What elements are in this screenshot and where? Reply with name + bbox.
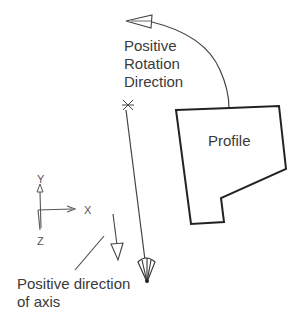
- rotation-label-line3: Direction: [124, 73, 183, 91]
- axis-direction-label-line2: of axis: [17, 293, 60, 311]
- axis-direction-label-line1: Positive direction: [17, 275, 130, 293]
- z-axis-line: [38, 210, 40, 230]
- triad-z-label: Z: [37, 235, 44, 247]
- diagram-canvas: Positive Rotation Direction Profile Posi…: [0, 0, 303, 326]
- rotation-label-line1: Positive: [124, 37, 177, 55]
- leader-line: [75, 236, 104, 270]
- triad-y-label: Y: [37, 173, 44, 185]
- triad-x-label: X: [84, 204, 91, 216]
- axis-cross-marker-icon: [122, 100, 134, 110]
- rotation-axis-line: [126, 110, 146, 268]
- profile-label: Profile: [208, 132, 251, 150]
- axis-cone-arrow-icon: [138, 258, 155, 283]
- profile-shape: [176, 106, 286, 224]
- x-axis-line: [38, 209, 72, 210]
- y-arrowhead-icon: [37, 184, 43, 192]
- rotation-arrowhead-icon: [126, 15, 152, 28]
- direction-arrow-shaft: [113, 214, 117, 245]
- direction-arrowhead-icon: [111, 243, 123, 260]
- rotation-label-line2: Rotation: [124, 55, 180, 73]
